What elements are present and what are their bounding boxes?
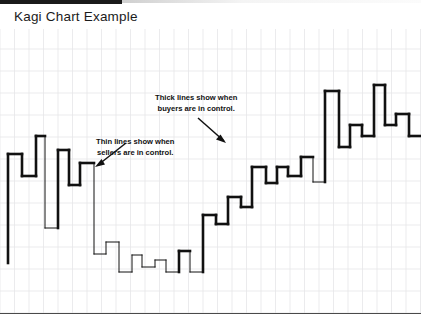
- chart-gridlines: [0, 29, 421, 313]
- thick-lines-annotation: Thick lines show when buyers are in cont…: [155, 92, 237, 114]
- chart-plot-area: [0, 29, 421, 319]
- top-strip-fade: [122, 0, 421, 3]
- thick-lines-annotation-line2: buyers are in control.: [155, 103, 237, 114]
- thin-lines-annotation-line2: sellers are in control.: [96, 147, 174, 158]
- thin-lines-annotation-line1: Thin lines show when: [96, 136, 174, 147]
- thick-lines-annotation-line1: Thick lines show when: [155, 92, 237, 103]
- kagi-chart-page: Kagi Chart Example Thick lines show when…: [0, 0, 421, 319]
- kagi-chart-svg: [0, 29, 421, 319]
- top-dark-strip: [0, 0, 122, 4]
- thin-lines-annotation: Thin lines show when sellers are in cont…: [96, 136, 174, 158]
- arrow-down-right-icon: [198, 118, 226, 143]
- page-title: Kagi Chart Example: [14, 9, 138, 24]
